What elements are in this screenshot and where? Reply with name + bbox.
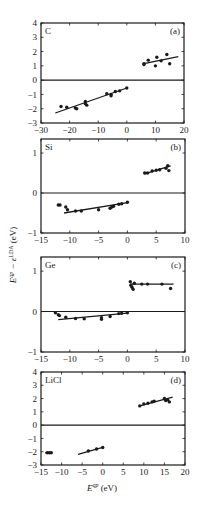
fit-line (58, 313, 127, 319)
x-tick-label: −5 (77, 467, 87, 477)
data-point (58, 314, 61, 317)
data-point (159, 59, 162, 62)
data-point (74, 317, 77, 320)
data-point (66, 208, 69, 211)
data-point (118, 89, 121, 92)
data-point (155, 56, 158, 59)
data-point (95, 447, 98, 450)
x-tick-label: −10 (91, 125, 106, 135)
figure: −3−2−101234−30−20−1001020C(a)−101−15−10−… (0, 0, 204, 511)
data-point (50, 451, 53, 454)
fit-line (78, 447, 103, 454)
y-tick-label: −2 (27, 104, 37, 114)
x-tick-label: −10 (63, 235, 78, 245)
x-tick-label: 0 (125, 235, 130, 245)
data-point (146, 402, 149, 405)
x-tick-label: 5 (154, 235, 159, 245)
data-point (142, 402, 145, 405)
data-point (133, 282, 136, 285)
y-tick-label: 2 (33, 394, 38, 404)
xlabel-unit: (eV) (98, 483, 117, 493)
material-label: Si (45, 142, 53, 152)
y-tick-label: 1 (33, 266, 38, 276)
ylabel-mid: − ε (8, 257, 18, 272)
x-tick-label: 0 (125, 125, 130, 135)
x-tick-label: −20 (63, 125, 78, 135)
data-point (140, 282, 143, 285)
y-tick-label: 0 (33, 420, 38, 430)
data-point (64, 316, 67, 319)
data-point (168, 62, 171, 65)
data-point (80, 209, 83, 212)
data-point (125, 86, 128, 89)
x-tick-label: 20 (181, 467, 191, 477)
x-tick-label: 10 (181, 354, 191, 364)
data-point (83, 317, 86, 320)
panel-a: −3−2−101234−30−20−1001020C(a) (27, 18, 189, 135)
data-point (117, 312, 120, 315)
x-tick-label: 10 (151, 125, 161, 135)
x-tick-label: 0 (125, 354, 130, 364)
ylabel-sup2: LDA (8, 245, 14, 258)
data-point (168, 400, 171, 403)
plot-frame (41, 139, 185, 233)
data-point (109, 94, 112, 97)
y-tick-label: 0 (33, 75, 38, 85)
data-point (138, 404, 141, 407)
data-point (97, 208, 100, 211)
data-point (112, 205, 115, 208)
data-point (155, 169, 158, 172)
data-point (150, 169, 153, 172)
data-point (114, 90, 117, 93)
y-tick-label: 1 (33, 407, 38, 417)
y-tick-label: 0 (33, 188, 38, 198)
data-point (129, 280, 132, 283)
data-point (166, 164, 169, 167)
plot-frame (41, 23, 184, 123)
x-tick-label: 10 (181, 235, 191, 245)
y-tick-label: −1 (27, 90, 37, 100)
data-point (120, 202, 123, 205)
y-tick-label: 2 (33, 47, 38, 57)
data-point (131, 288, 134, 291)
x-tick-label: −10 (63, 354, 78, 364)
panel-b: −101−15−10−50510Si(b) (27, 139, 190, 245)
data-point (100, 318, 103, 321)
data-point (58, 203, 61, 206)
y-tick-label: 3 (33, 380, 38, 390)
plot-frame (41, 372, 185, 465)
x-tick-label: −10 (55, 467, 70, 477)
x-tick-label: −30 (34, 125, 49, 135)
y-tick-label: 4 (33, 367, 38, 377)
panel-tag: (c) (171, 260, 181, 270)
panel-d: −3−2−101234−15−10−505101520LiCl(d) (27, 367, 190, 477)
panel-tag: (d) (171, 375, 182, 385)
y-tick-label: 3 (33, 32, 38, 42)
material-label: LiCl (45, 375, 62, 385)
panel-tag: (b) (171, 142, 182, 152)
y-tick-label: 0 (33, 307, 38, 317)
panel-c: −101−15−10−50510Ge(c) (27, 257, 190, 364)
data-point (117, 203, 120, 206)
data-point (126, 311, 129, 314)
data-point (160, 282, 163, 285)
data-point (142, 63, 145, 66)
x-tick-label: 15 (160, 467, 170, 477)
y-axis-label: Eqp − εLDA (eV) (2, 200, 22, 310)
data-point (105, 92, 108, 95)
data-point (54, 311, 57, 314)
data-point (74, 209, 77, 212)
data-point (101, 446, 104, 449)
y-tick-label: 1 (33, 148, 38, 158)
data-point (167, 169, 170, 172)
data-point (146, 171, 149, 174)
x-tick-label: 5 (154, 354, 159, 364)
data-point (158, 168, 161, 171)
data-point (152, 400, 155, 403)
x-tick-label: 10 (139, 467, 149, 477)
data-point (165, 53, 168, 56)
ylabel-unit: (eV) (8, 227, 18, 246)
x-tick-label: −15 (34, 354, 49, 364)
x-tick-label: −15 (34, 235, 49, 245)
plot-canvas: −3−2−101234−30−20−1001020C(a)−101−15−10−… (0, 0, 204, 511)
